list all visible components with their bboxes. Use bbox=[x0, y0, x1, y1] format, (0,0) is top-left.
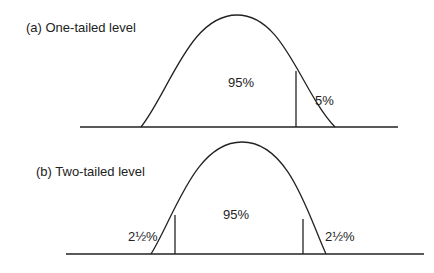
panel-b-title: (b) Two-tailed level bbox=[36, 164, 145, 179]
panel-b-left-tail-percent: 2½% bbox=[128, 229, 158, 244]
panel-b-right-tail-percent: 2½% bbox=[325, 229, 355, 244]
panel-b-center-percent: 95% bbox=[223, 207, 249, 222]
panel-b-curve bbox=[151, 142, 326, 254]
normal-curves-diagram bbox=[0, 0, 434, 273]
panel-a-center-percent: 95% bbox=[228, 75, 254, 90]
panel-b-graphic bbox=[66, 142, 424, 254]
panel-a-right-tail-percent: 5% bbox=[315, 93, 334, 108]
panel-a-curve bbox=[141, 15, 335, 127]
panel-a-title: (a) One-tailed level bbox=[26, 20, 136, 35]
